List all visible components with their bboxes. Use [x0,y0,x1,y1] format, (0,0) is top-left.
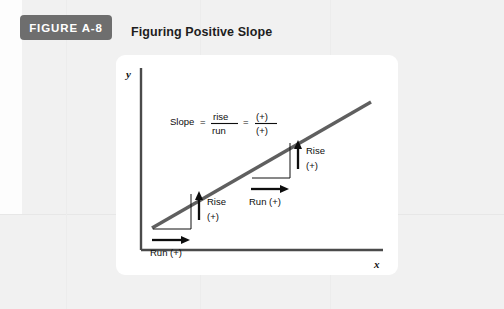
x-axis-label: x [373,258,380,270]
formula-run: run [212,125,226,136]
figure-number-label: FIGURE A-8 [29,22,103,34]
formula-equals-1: = [200,116,206,127]
upper-rise-label: Rise [306,145,325,156]
lower-rise-sign: (+) [207,211,219,222]
formula-plus-numerator: (+) [256,111,268,122]
upper-rise-sign: (+) [306,160,318,171]
formula-plus-denominator: (+) [256,125,268,136]
background-panel-left [0,0,22,215]
upper-run-arrow-head [280,185,289,193]
formula-rise: rise [213,111,228,122]
upper-run-label: Run (+) [249,196,281,207]
slope-chart: y x Slope = rise run = (+) (+) Rise [116,55,398,275]
lower-rise-label: Rise [207,196,226,207]
slope-formula-annotation: Slope = rise run = (+) (+) [170,111,277,136]
figure-number-badge: FIGURE A-8 [20,15,112,40]
figure-title: Figuring Positive Slope [131,25,272,39]
formula-equals-2: = [243,116,249,127]
formula-lead: Slope [170,116,194,127]
lower-rise-arrow-head [195,191,203,200]
chart-card: y x Slope = rise run = (+) (+) Rise [116,55,398,275]
lower-run-arrow-head [181,236,190,244]
background-vertical-hairline-1 [66,0,67,309]
lower-run-label: Run (+) [150,247,182,258]
y-axis-label: y [124,68,131,80]
